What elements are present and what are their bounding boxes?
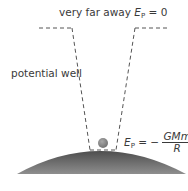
mass-ball [98,138,108,148]
potential-well-diagram: very far away EP = 0 potential well EP =… [0,0,188,191]
far-away-label: very far away EP = 0 [59,6,167,18]
left-well-wall [72,28,90,150]
surface-energy-label: EP = − GMmR [124,131,188,154]
energy-fraction: GMmR [162,131,188,154]
diagram-graphics [0,0,188,191]
planet-surface [17,151,186,174]
potential-well-label: potential well [11,67,82,79]
